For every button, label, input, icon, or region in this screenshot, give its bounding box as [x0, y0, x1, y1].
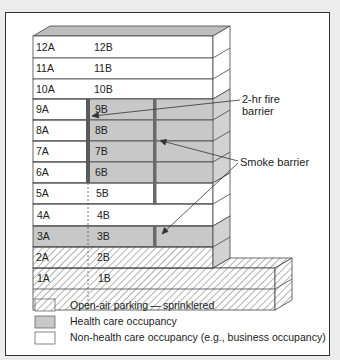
floor-label: 4A — [37, 209, 50, 221]
floor-label: 10B — [94, 83, 113, 95]
legend-swatch-health — [35, 316, 55, 328]
fire-barrier-label: 2-hr fire — [242, 93, 280, 105]
floor-label: 12B — [94, 41, 113, 53]
floor-label: 1A — [37, 272, 50, 284]
floor-label: 6B — [95, 166, 108, 178]
floor-label: 2A — [36, 251, 49, 263]
building-diagram: 12A 12B 11A 11B 10A 10B 9A 9B 8A 8B 7A 7… — [0, 0, 340, 360]
floor-label: 5A — [36, 187, 49, 199]
legend-label: Non-health care occupancy (e.g., busines… — [70, 331, 326, 343]
smoke-barrier-lower — [153, 226, 157, 247]
floor-label: 3B — [97, 230, 110, 242]
floor-label: 11B — [94, 62, 112, 74]
floor-label: 7A — [36, 145, 49, 157]
smoke-barrier-label: Smoke barrier — [240, 156, 309, 168]
floor-label: 5B — [96, 187, 109, 199]
smoke-barrier-upper — [153, 99, 157, 205]
floor-label: 12A — [36, 41, 55, 53]
legend-label: Open-air parking — sprinklered — [70, 299, 214, 311]
legend-swatch-non-health — [35, 332, 55, 344]
floor-label: 3A — [37, 230, 50, 242]
fire-barrier-label: barrier — [242, 105, 274, 117]
floor-label: 8A — [36, 124, 49, 136]
floor-label: 9A — [36, 103, 49, 115]
fire-barrier — [86, 99, 90, 183]
floor-label: 11A — [36, 62, 54, 74]
legend-label: Health care occupancy — [70, 315, 178, 327]
roof — [33, 26, 230, 36]
floor-label: 4B — [97, 209, 110, 221]
floor-label: 6A — [36, 166, 49, 178]
tower-front — [33, 36, 213, 268]
floor-label: 1B — [98, 272, 111, 284]
floor-label: 2B — [97, 251, 110, 263]
legend-swatch-parking — [35, 299, 55, 311]
floor-label: 8B — [95, 124, 108, 136]
tower-side — [213, 26, 230, 268]
floor-label: 7B — [95, 145, 108, 157]
floor-label: 10A — [36, 83, 55, 95]
